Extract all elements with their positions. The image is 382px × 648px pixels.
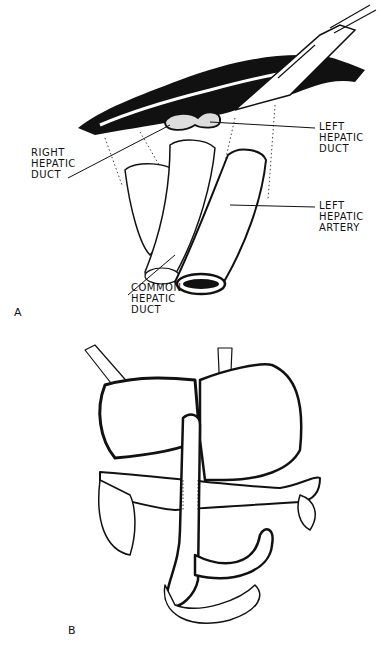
panel-a-hepatic-duct-illustration: RIGHTHEPATICDUCT LEFTHEPATICDUCT LEFTHEP…	[0, 0, 382, 325]
panel-b-abdominal-organs-illustration: B	[0, 330, 382, 648]
label-common-hepatic-duct: COMMONHEPATICDUCT	[131, 282, 181, 315]
label-right-hepatic-duct: RIGHTHEPATICDUCT	[31, 147, 76, 180]
panel-letter-a: A	[14, 306, 22, 319]
label-left-hepatic-duct: LEFTHEPATICDUCT	[319, 121, 364, 154]
abdominal-anatomy-drawing	[0, 330, 382, 648]
bowel-loop-upper	[195, 529, 273, 578]
duct-bifurcation	[165, 112, 220, 130]
stomach-shape	[200, 364, 301, 480]
label-left-hepatic-artery: LEFTHEPATICARTERY	[319, 200, 364, 233]
panel-letter-b: B	[68, 624, 76, 637]
